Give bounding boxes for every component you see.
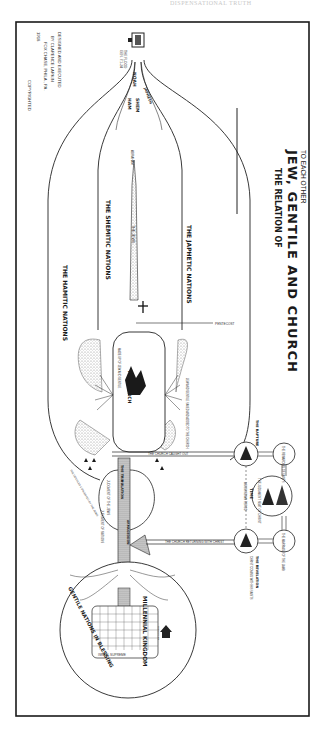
flood-ref: GEN. 7:1-24 — [119, 50, 123, 68]
dispensational-chart: THE RELATION OF JEW, GENTILE AND CHURCH … — [0, 0, 333, 739]
label-church-caught-out: THE CHURCH CAUGHT OUT — [148, 452, 189, 456]
title-line3: TO EACH OTHER — [300, 150, 307, 204]
label-judgment-nations: JUDGMENT OF NATIONS — [100, 510, 104, 543]
label-millennial-kingdom: MILLENNIAL KINGDOM — [142, 596, 148, 667]
nations-stipple-left — [78, 339, 102, 392]
label-church: THE CHURCH — [127, 370, 132, 404]
label-jerusalem: JERUSALEM — [157, 626, 160, 640]
credit-line3: FOX CHASE, PHILA., PA. — [43, 42, 48, 91]
label-pentecost: PENTECOST — [215, 322, 235, 326]
label-abraham: ABRAHAM — [130, 150, 134, 165]
cross-icon — [138, 301, 148, 313]
title-line2: JEW, GENTILE AND CHURCH — [285, 149, 300, 373]
label-gentiles-converted: THE GENTILES CONVERTED BY THE JEWS — [69, 469, 99, 518]
label-revelation-sub: CHRIST COMING WITH HIS SAINTS — [249, 556, 253, 600]
credit-line2: BY CLARENCE LARKIN — [50, 36, 55, 82]
credit-date: 1918 — [36, 32, 41, 42]
label-judgment-jews: JUDGMENT OF THE JEWS — [106, 480, 110, 515]
label-judgment-seat: THE JUDGMENT SEAT OF CHRIST — [257, 478, 261, 524]
noah-branches — [116, 62, 162, 130]
label-church-returning: THE CHURCH RETURNING WITH CHRIST — [165, 540, 224, 544]
label-noah: NOAH — [132, 72, 137, 87]
label-ham: HAM — [127, 98, 132, 110]
label-shemitic-nations: THE SHEMITIC NATIONS — [105, 200, 112, 280]
judgment-lobe-right — [130, 470, 154, 530]
credit-block: DESIGNED AND EXECUTED BY CLARENCE LARKIN… — [27, 32, 62, 111]
label-revelation: THE REVELATION — [255, 556, 259, 588]
label-japhetic-nations: THE JAPHETIC NATIONS — [185, 225, 193, 303]
label-armageddon: ARMAGEDDON — [126, 520, 130, 545]
label-time-sub: AN UNKNOWN PERIOD — [243, 482, 247, 511]
label-tribulation: THE TRIBULATION — [120, 465, 124, 499]
flood-ark — [128, 33, 144, 47]
label-jews: THE JEWS — [131, 225, 135, 244]
label-reward: THE REWARDING OF SAINTS — [281, 446, 285, 483]
label-hamitic-nations: THE HAMITIC NATIONS — [62, 265, 69, 341]
nations-stipple-lower-left — [75, 420, 110, 455]
label-church-ref: MADE UP OF JEW AND GENTILE — [117, 348, 121, 388]
credit-line1: DESIGNED AND EXECUTED — [57, 32, 62, 88]
label-rapture: THE RAPTURE — [255, 420, 259, 447]
title-line1: THE RELATION OF — [273, 168, 282, 248]
label-shem: SHEM — [135, 98, 140, 113]
credit-copyright: COPYRIGHTED — [27, 80, 32, 111]
restoration-channel — [118, 588, 130, 608]
label-time: TIME — [249, 488, 254, 499]
label-marriage: THE MARRIAGE OF THE LAMB — [281, 533, 285, 571]
label-jew-gentile-saved: JEW AND GENTILE SAVED AND ADDED TO THE C… — [185, 378, 189, 449]
mount-olivet-icon — [130, 535, 150, 555]
chart-title: THE RELATION OF JEW, GENTILE AND CHURCH … — [273, 149, 307, 373]
